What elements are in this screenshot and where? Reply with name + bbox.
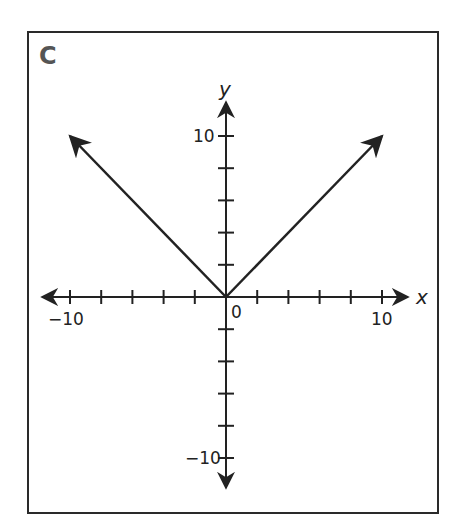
origin-label: 0 — [231, 302, 242, 322]
coordinate-plane: x y −10 10 0 10 −10 — [0, 0, 470, 527]
x-axis-label: x — [415, 285, 428, 309]
x-tick-label-neg10: −10 — [48, 309, 84, 329]
y-tick-label-neg10: −10 — [185, 448, 221, 468]
graph-ray — [226, 136, 382, 297]
y-axis-label: y — [218, 77, 232, 101]
y-tick-label-10: 10 — [193, 126, 215, 146]
graph-ray — [70, 136, 226, 297]
x-tick-label-10: 10 — [371, 309, 393, 329]
